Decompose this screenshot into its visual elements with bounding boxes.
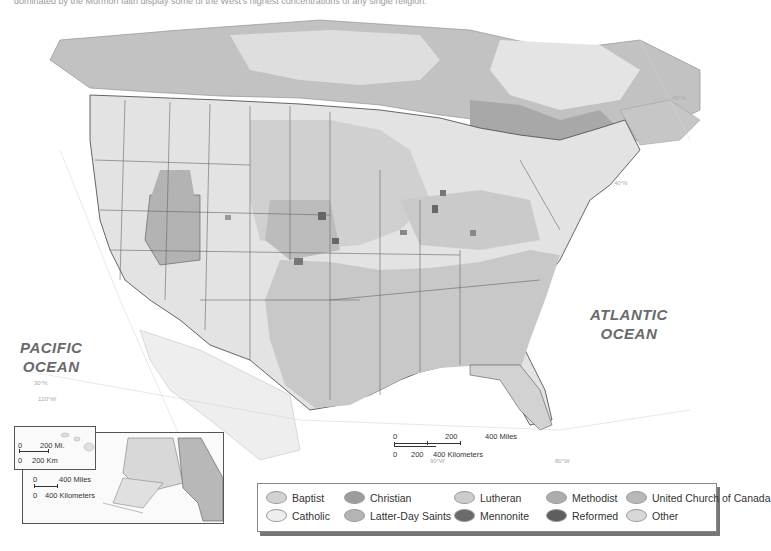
graticule-label: 80°W	[555, 458, 570, 464]
legend-label: Catholic	[292, 510, 330, 522]
legend-label: Christian	[370, 492, 411, 504]
hawaii-scale-km-200: 200 Km	[32, 456, 58, 465]
legend-item-christian: Christian	[344, 491, 454, 504]
scale-miles-0: 0	[393, 432, 397, 441]
pacific-line1: PACIFIC	[20, 338, 82, 357]
graticule-label: 45°N	[672, 95, 685, 101]
alaska-scale-km-400: 400 Kilometers	[45, 491, 95, 500]
legend-item-lutheran: Lutheran	[454, 491, 546, 504]
united-church-swatch	[626, 491, 647, 504]
legend-label: Baptist	[292, 492, 324, 504]
catholic-swatch	[266, 509, 287, 522]
legend-item-catholic: Catholic	[266, 509, 344, 522]
hawaii-inset: 0 200 Mi. 0 200 Km	[14, 426, 96, 470]
legend: Baptist Christian Lutheran Methodist Uni…	[257, 483, 717, 532]
scale-km-200: 200	[411, 450, 424, 459]
legend-item-other: Other	[626, 509, 756, 522]
atlantic-line1: ATLANTIC	[590, 305, 668, 324]
hawaii-scale-km-0: 0	[18, 456, 22, 465]
legend-item-reformed: Reformed	[546, 509, 626, 522]
alaska-scale-bar: 0 400 Miles 0 400 Kilometers	[33, 475, 113, 505]
legend-item-baptist: Baptist	[266, 491, 344, 504]
scale-miles-200: 200	[445, 432, 458, 441]
legend-label: Other	[652, 510, 678, 522]
baptist-swatch	[266, 491, 287, 504]
scale-km-400: 400 Kilometers	[433, 450, 483, 459]
legend-label: Lutheran	[480, 492, 521, 504]
alaska-scale-miles-0: 0	[33, 475, 37, 484]
lutheran-swatch	[454, 491, 475, 504]
pacific-ocean-label: PACIFIC OCEAN	[20, 338, 82, 376]
legend-label: Reformed	[572, 510, 618, 522]
christian-swatch	[344, 491, 365, 504]
legend-label: Methodist	[572, 492, 618, 504]
main-scale-bar: 0 200 400 Miles 0 200 400 Kilometers	[393, 432, 523, 462]
methodist-swatch	[546, 491, 567, 504]
legend-item-latter-day-saints: Latter-Day Saints	[344, 509, 454, 522]
scale-km-0: 0	[393, 450, 397, 459]
other-swatch	[626, 509, 647, 522]
atlantic-line2: OCEAN	[590, 324, 668, 343]
alaska-scale-km-0: 0	[33, 491, 37, 500]
hawaii-scale-miles-200: 200 Mi.	[40, 441, 65, 450]
legend-item-united-church: United Church of Canada	[626, 491, 756, 504]
latter-day-saints-swatch	[344, 509, 365, 522]
legend-item-methodist: Methodist	[546, 491, 626, 504]
alaska-scale-miles-400: 400 Miles	[59, 475, 91, 484]
legend-label: United Church of Canada	[652, 492, 771, 504]
reformed-swatch	[546, 509, 567, 522]
mennonite-swatch	[454, 509, 475, 522]
atlantic-ocean-label: ATLANTIC OCEAN	[590, 305, 668, 343]
graticule-label: 30°N	[34, 380, 47, 386]
legend-label: Mennonite	[480, 510, 529, 522]
legend-item-mennonite: Mennonite	[454, 509, 546, 522]
scale-miles-400: 400 Miles	[485, 432, 517, 441]
graticule-label: 40°N	[614, 180, 627, 186]
graticule-label: 120°W	[38, 396, 56, 402]
hawaii-scale-bar: 0 200 Mi. 0 200 Km	[18, 441, 78, 467]
legend-label: Latter-Day Saints	[370, 510, 451, 522]
pacific-line2: OCEAN	[20, 357, 82, 376]
